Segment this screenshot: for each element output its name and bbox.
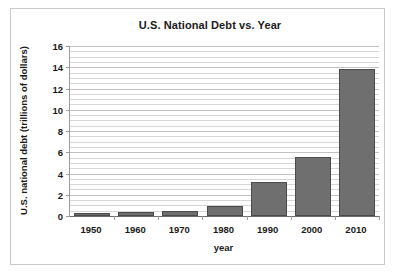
bar <box>207 206 243 216</box>
y-tick-label: 10 <box>41 106 63 115</box>
gridline-minor <box>70 57 379 58</box>
x-tick-label: 1960 <box>113 224 157 235</box>
x-axis-title: year <box>69 242 378 253</box>
x-tick-mark <box>114 216 115 220</box>
y-tick-label: 8 <box>41 127 63 136</box>
gridline-minor <box>70 189 379 190</box>
gridline-minor <box>70 120 379 121</box>
gridline-minor <box>70 73 379 74</box>
y-tick-mark <box>66 131 70 132</box>
gridline-major <box>70 67 379 68</box>
plot-area <box>69 46 379 217</box>
gridline-minor <box>70 126 379 127</box>
x-tick-label: 1990 <box>246 224 290 235</box>
gridline-major <box>70 46 379 47</box>
bar <box>339 69 375 216</box>
gridline-minor <box>70 163 379 164</box>
gridline-major <box>70 152 379 153</box>
bar <box>74 213 110 216</box>
y-tick-mark <box>66 216 70 217</box>
y-tick-mark <box>66 174 70 175</box>
gridline-minor <box>70 147 379 148</box>
gridline-minor <box>70 158 379 159</box>
gridline-minor <box>70 94 379 95</box>
gridline-minor <box>70 142 379 143</box>
gridline-major <box>70 131 379 132</box>
gridline-major <box>70 174 379 175</box>
gridline-minor <box>70 115 379 116</box>
gridline-minor <box>70 83 379 84</box>
y-tick-label: 12 <box>41 85 63 94</box>
x-tick-label: 1980 <box>202 224 246 235</box>
gridline-minor <box>70 200 379 201</box>
x-tick-mark <box>291 216 292 220</box>
y-tick-mark <box>66 46 70 47</box>
y-tick-label: 2 <box>41 191 63 200</box>
chart-title: U.S. National Debt vs. Year <box>40 19 380 31</box>
y-tick-mark <box>66 67 70 68</box>
page-top-text-remnant: ' ' <box>0 0 399 7</box>
x-tick-mark <box>202 216 203 220</box>
y-tick-label: 14 <box>41 63 63 72</box>
gridline-minor <box>70 184 379 185</box>
gridline-major <box>70 89 379 90</box>
remnant-text: ' ' <box>152 0 164 2</box>
gridline-minor <box>70 136 379 137</box>
x-tick-label: 2000 <box>290 224 334 235</box>
gridline-minor <box>70 62 379 63</box>
y-tick-mark <box>66 195 70 196</box>
gridline-minor <box>70 168 379 169</box>
y-tick-label: 4 <box>41 170 63 179</box>
gridline-minor <box>70 99 379 100</box>
y-tick-label: 16 <box>41 42 63 51</box>
x-tick-mark <box>247 216 248 220</box>
y-tick-label: 0 <box>41 212 63 221</box>
x-tick-mark <box>158 216 159 220</box>
x-tick-label: 1950 <box>69 224 113 235</box>
bar <box>162 211 198 216</box>
gridline-minor <box>70 104 379 105</box>
x-tick-label: 2010 <box>334 224 378 235</box>
y-tick-mark <box>66 110 70 111</box>
gridline-minor <box>70 179 379 180</box>
bar <box>295 157 331 217</box>
bar <box>251 182 287 216</box>
y-tick-mark <box>66 89 70 90</box>
gridline-major <box>70 110 379 111</box>
gridline-minor <box>70 78 379 79</box>
y-tick-mark <box>66 152 70 153</box>
x-tick-mark <box>335 216 336 220</box>
bar <box>118 212 154 216</box>
gridline-major <box>70 195 379 196</box>
gridline-minor <box>70 51 379 52</box>
y-axis-title: U.S. national debt (trillions of dollars… <box>18 41 29 221</box>
y-tick-label: 6 <box>41 148 63 157</box>
x-tick-mark <box>379 216 380 220</box>
x-tick-label: 1970 <box>157 224 201 235</box>
